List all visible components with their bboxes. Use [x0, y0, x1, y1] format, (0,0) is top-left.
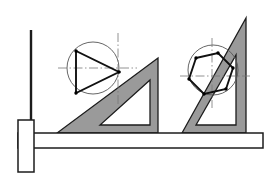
right-construction-vertex-5 [187, 77, 190, 80]
drafting-diagram-stage: T-square and set-square triangles positi… [0, 0, 278, 178]
right-construction-vertex-4 [202, 92, 205, 95]
drafting-figure [0, 0, 278, 178]
left-construction-vertex-2 [117, 70, 120, 73]
left-construction-vertex-0 [74, 49, 77, 52]
right-construction-vertex-2 [231, 66, 234, 69]
left-construction-vertex-1 [74, 91, 77, 94]
right-construction-vertex-1 [216, 51, 219, 54]
tsquare-blade [18, 133, 263, 148]
tsquare-head [18, 120, 34, 172]
right-construction-vertex-0 [194, 56, 197, 59]
right-construction-vertex-3 [224, 87, 227, 90]
